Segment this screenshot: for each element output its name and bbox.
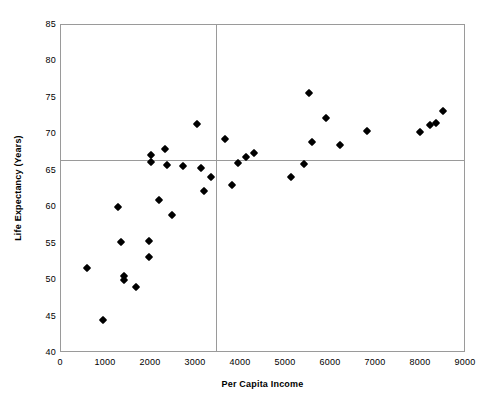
- y-axis-title-text: Life Expectancy (Years): [13, 135, 23, 241]
- data-point: [83, 263, 91, 271]
- data-point: [154, 196, 162, 204]
- data-point: [114, 203, 122, 211]
- x-axis-title: Per Capita Income: [60, 379, 465, 389]
- data-point: [439, 107, 447, 115]
- data-point: [228, 181, 236, 189]
- data-point: [145, 237, 153, 245]
- data-point: [363, 127, 371, 135]
- data-point: [99, 316, 107, 324]
- data-point: [307, 138, 315, 146]
- data-point: [249, 148, 257, 156]
- x-axis-tick-label: 9000: [435, 357, 495, 367]
- data-point: [200, 187, 208, 195]
- data-point: [287, 172, 295, 180]
- data-point: [300, 160, 308, 168]
- data-point: [416, 128, 424, 136]
- data-point: [221, 135, 229, 143]
- data-point: [321, 114, 329, 122]
- data-point: [168, 210, 176, 218]
- horizontal-reference-line: [61, 160, 464, 161]
- data-point: [193, 120, 201, 128]
- data-point: [131, 283, 139, 291]
- data-point: [336, 140, 344, 148]
- data-point: [178, 161, 186, 169]
- data-point: [163, 161, 171, 169]
- data-point: [145, 253, 153, 261]
- y-axis-title: Life Expectancy (Years): [10, 24, 26, 352]
- data-point: [197, 164, 205, 172]
- data-point: [207, 172, 215, 180]
- data-point: [117, 238, 125, 246]
- data-point: [160, 145, 168, 153]
- plot-area: [60, 24, 465, 352]
- data-point: [305, 89, 313, 97]
- x-axis-tick-labels: 0100020003000400050006000700080009000: [60, 357, 465, 371]
- scatter-chart: 40455055606570758085 Life Expectancy (Ye…: [0, 0, 498, 414]
- vertical-reference-line: [216, 25, 217, 351]
